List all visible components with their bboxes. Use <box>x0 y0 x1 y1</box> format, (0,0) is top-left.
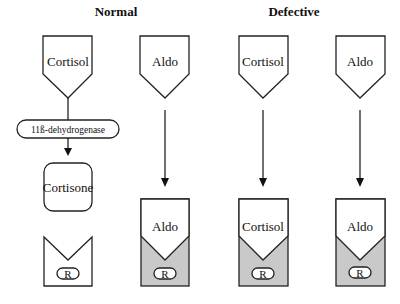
svg-text:Aldo: Aldo <box>152 54 178 69</box>
arrow-head-icon <box>259 178 267 187</box>
header-normal: Normal <box>95 4 138 19</box>
column-2: Aldo Aldo R <box>140 36 189 286</box>
svg-text:R: R <box>64 268 72 280</box>
arrow-head-icon <box>161 178 169 187</box>
arrow-head-icon <box>356 178 364 187</box>
svg-text:Aldo: Aldo <box>347 219 373 234</box>
svg-text:Aldo: Aldo <box>152 219 178 234</box>
header-defective: Defective <box>268 4 319 19</box>
product-label: Cortisone <box>43 180 94 195</box>
svg-text:R: R <box>161 268 169 280</box>
column-3: Cortisol Cortisol R <box>239 36 288 286</box>
svg-text:Cortisol: Cortisol <box>242 219 284 234</box>
column-1: Cortisol 11ß-dehydrogenase Cortisone R <box>17 36 119 286</box>
column-4: Aldo Aldo R <box>336 36 385 286</box>
svg-text:Aldo: Aldo <box>347 54 373 69</box>
diagram: Normal Defective Cortisol 11ß-dehydrogen… <box>0 0 400 304</box>
svg-text:R: R <box>259 268 267 280</box>
svg-text:R: R <box>356 267 364 279</box>
enzyme-label: 11ß-dehydrogenase <box>31 125 105 135</box>
arrow-head-icon <box>64 148 72 156</box>
svg-text:Cortisol: Cortisol <box>242 54 284 69</box>
hormone-label: Cortisol <box>47 54 89 69</box>
